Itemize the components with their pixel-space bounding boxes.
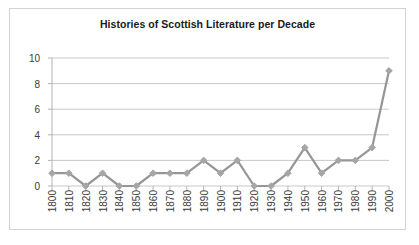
x-axis-tick-label-1930: 1930 [266,190,277,212]
x-axis-tick-label-1830: 1830 [97,190,108,212]
x-axis-tick-label-1920: 1920 [249,190,260,212]
x-axis-tick-label-1940: 1940 [282,190,293,212]
x-axis-tick-label-1820: 1820 [80,190,91,212]
x-axis-tick-label-1950: 1950 [299,190,310,212]
x-axis-tick-label-1960: 1960 [316,190,327,212]
x-axis-tick-label-1800: 1800 [47,190,58,212]
x-axis-tick-label-1850: 1850 [131,190,142,212]
x-axis-tick-label-1970: 1970 [333,190,344,212]
x-axis-tick-label-1990: 1990 [367,190,378,212]
x-axis-tick-label-1810: 1810 [63,190,74,212]
x-axis-tick-label-1840: 1840 [114,190,125,212]
x-axis-labels: 1800181018201830184018501860187018801890… [0,0,419,245]
x-axis-tick-label-2000: 2000 [384,190,395,212]
x-axis-tick-label-1900: 1900 [215,190,226,212]
x-axis-tick-label-1910: 1910 [232,190,243,212]
x-axis-tick-label-1890: 1890 [198,190,209,212]
x-axis-tick-label-1880: 1880 [181,190,192,212]
x-axis-tick-label-1870: 1870 [164,190,175,212]
x-axis-tick-label-1860: 1860 [148,190,159,212]
x-axis-tick-label-1980: 1980 [350,190,361,212]
